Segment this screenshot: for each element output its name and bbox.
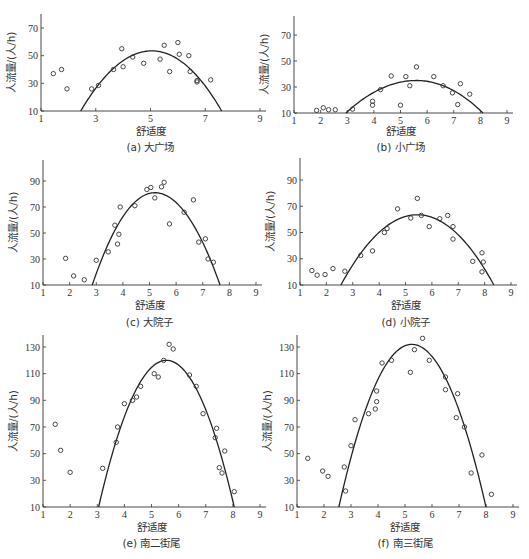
- data-point: [120, 47, 124, 51]
- data-point: [409, 216, 413, 220]
- data-point: [187, 53, 191, 57]
- x-tick-label: 9: [509, 287, 514, 298]
- y-tick-label: 70: [30, 202, 40, 213]
- x-tick-label: 5: [403, 509, 408, 520]
- data-point: [176, 40, 180, 44]
- data-point: [58, 448, 62, 452]
- y-tick-label: 50: [287, 227, 297, 238]
- data-point: [373, 407, 377, 411]
- x-tick-label: 4: [120, 287, 125, 298]
- x-tick-label: 7: [203, 509, 208, 520]
- y-tick-label: 50: [30, 448, 40, 459]
- x-axis-label: 舒适度: [390, 521, 421, 533]
- data-point: [480, 251, 484, 255]
- x-tick-label: 8: [227, 287, 232, 298]
- data-point: [134, 395, 138, 399]
- data-point: [82, 278, 86, 282]
- data-point: [427, 224, 431, 228]
- y-tick-label: 10: [284, 502, 294, 513]
- data-point: [59, 67, 63, 71]
- x-tick-label: 2: [68, 509, 73, 520]
- x-tick-label: 2: [322, 509, 327, 520]
- x-tick-label: 6: [430, 509, 435, 520]
- y-tick-label: 70: [28, 23, 38, 34]
- data-point: [223, 449, 227, 453]
- data-point: [94, 258, 98, 262]
- data-point: [315, 273, 319, 277]
- y-tick-label: 70: [281, 30, 291, 41]
- data-point: [408, 370, 412, 374]
- data-point: [220, 471, 224, 475]
- x-tick-label: 7: [457, 509, 462, 520]
- x-tick-label: 9: [511, 509, 516, 520]
- data-point: [456, 102, 460, 106]
- chart-panel-d: 1030507090123456789人流量/(人/h)舒适度(d) 小院子: [264, 158, 517, 328]
- data-point: [415, 196, 419, 200]
- data-point: [481, 260, 485, 264]
- data-point: [68, 470, 72, 474]
- data-point: [455, 391, 459, 395]
- y-tick-label: 110: [279, 368, 294, 379]
- data-point: [159, 185, 163, 189]
- x-tick-label: 5: [403, 287, 408, 298]
- data-point: [446, 213, 450, 217]
- data-point: [89, 87, 93, 91]
- data-point: [162, 180, 166, 184]
- chart-panel-c: 1030507090123456789人流量/(人/h)舒适度(c) 大院子: [7, 160, 262, 328]
- y-tick-label: 70: [30, 422, 40, 433]
- data-point: [342, 465, 346, 469]
- chart-caption: (e) 南二街尾: [123, 537, 181, 549]
- data-point: [408, 84, 412, 88]
- x-tick-label: 1: [298, 287, 303, 298]
- x-tick-label: 1: [41, 509, 46, 520]
- data-point: [349, 443, 353, 447]
- data-point: [71, 274, 75, 278]
- y-tick-label: 30: [281, 82, 291, 93]
- x-tick-label: 7: [451, 115, 456, 126]
- data-point: [374, 389, 378, 393]
- y-tick-label: 10: [30, 280, 40, 291]
- y-axis-label: 人流量/(人/h): [261, 390, 273, 452]
- data-point: [115, 425, 119, 429]
- y-tick-label: 90: [287, 175, 297, 186]
- x-axis-label: 舒适度: [135, 299, 166, 311]
- y-axis-label: 人流量/(人/h): [258, 34, 270, 96]
- data-point: [374, 399, 378, 403]
- x-tick-label: 3: [93, 113, 98, 124]
- y-tick-label: 10: [28, 106, 38, 117]
- chart-caption: (c) 大院子: [126, 316, 173, 328]
- x-tick-label: 3: [345, 115, 350, 126]
- chart-caption: (d) 小院子: [381, 316, 429, 328]
- chart-panel-f: 1030507090110130123456789人流量/(人/h)舒适度(f)…: [261, 335, 519, 549]
- y-tick-label: 130: [279, 342, 294, 353]
- x-axis-label: 舒适度: [386, 125, 417, 137]
- y-tick-label: 90: [30, 176, 40, 187]
- fit-curve: [99, 360, 235, 507]
- x-tick-label: 5: [149, 509, 154, 520]
- y-tick-label: 110: [25, 368, 40, 379]
- data-point: [454, 415, 458, 419]
- data-point: [138, 384, 142, 388]
- chart-panel-b: 10305070123456789人流量/(人/h)舒适度(b) 小广场: [258, 16, 513, 153]
- x-tick-label: 5: [148, 113, 153, 124]
- y-axis-label: 人流量/(人/h): [5, 32, 17, 94]
- data-point: [209, 78, 213, 82]
- data-point: [306, 456, 310, 460]
- figure-canvas: 1030507013579人流量/(人/h)舒适度(a) 大广场10305070…: [0, 0, 529, 559]
- data-point: [389, 358, 393, 362]
- x-tick-label: 8: [482, 287, 487, 298]
- data-point: [471, 259, 475, 263]
- x-tick-label: 8: [484, 509, 489, 520]
- y-axis-label: 人流量/(人/h): [7, 192, 19, 254]
- data-point: [310, 268, 314, 272]
- data-point: [389, 74, 393, 78]
- y-tick-label: 30: [30, 475, 40, 486]
- x-axis-label: 舒适度: [137, 521, 168, 533]
- data-point: [366, 411, 370, 415]
- data-point: [443, 387, 447, 391]
- data-point: [197, 240, 201, 244]
- data-point: [412, 347, 416, 351]
- x-tick-label: 9: [258, 113, 263, 124]
- data-point: [451, 237, 455, 241]
- data-point: [480, 270, 484, 274]
